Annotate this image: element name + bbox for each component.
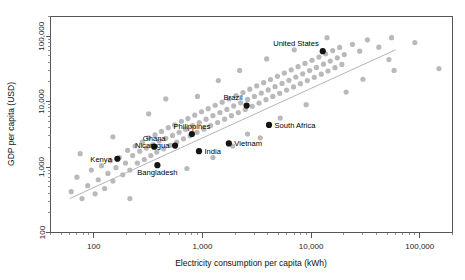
data-point — [261, 80, 266, 85]
data-point — [339, 62, 344, 67]
x-tick-label: 10,000 — [299, 242, 324, 251]
data-point — [120, 172, 125, 177]
data-point — [268, 77, 273, 82]
data-point — [85, 183, 90, 188]
data-point — [275, 74, 280, 79]
data-point — [312, 75, 317, 80]
data-point — [127, 196, 132, 201]
data-point — [279, 81, 284, 86]
data-point — [105, 171, 110, 176]
data-point — [213, 103, 218, 108]
data-point — [391, 68, 396, 73]
data-point — [222, 117, 227, 122]
background-scatter-points — [69, 35, 442, 201]
data-point — [192, 113, 197, 118]
data-point — [332, 65, 337, 70]
point-label-bangladesh: Bangladesh — [137, 168, 177, 177]
data-point — [78, 151, 83, 156]
data-point — [337, 45, 342, 50]
data-point — [389, 35, 394, 40]
x-axis-ticks — [51, 233, 453, 238]
data-point — [284, 88, 289, 93]
data-point — [365, 37, 370, 42]
plot-canvas: 1001,00010,000100,000 1001,00010,000100,… — [0, 0, 465, 280]
y-tick-label: 10,000 — [38, 89, 47, 114]
data-point — [184, 166, 189, 171]
x-tick-label: 100,000 — [405, 242, 434, 251]
data-point — [125, 148, 130, 153]
data-point — [254, 83, 259, 88]
data-point — [330, 48, 335, 53]
data-point — [298, 81, 303, 86]
data-point — [252, 94, 257, 99]
data-point — [163, 96, 168, 101]
data-point — [386, 57, 391, 62]
data-point — [185, 116, 190, 121]
data-point — [237, 68, 242, 73]
data-point — [127, 167, 132, 172]
data-point — [412, 40, 417, 45]
data-point — [277, 91, 282, 96]
data-point — [142, 157, 147, 162]
data-point — [264, 56, 269, 61]
scatter-plot-figure: 1001,00010,000100,000 1001,00010,000100,… — [0, 0, 465, 280]
data-point — [291, 84, 296, 89]
highlighted-data-point — [266, 122, 272, 128]
data-point — [328, 58, 333, 63]
data-point — [69, 189, 74, 194]
data-point — [350, 42, 355, 47]
data-point — [199, 109, 204, 114]
highlighted-data-point — [114, 156, 120, 162]
data-point — [314, 65, 319, 70]
data-point — [231, 103, 236, 108]
data-point — [360, 77, 365, 82]
highlighted-data-point — [196, 148, 202, 154]
y-tick-label: 1,000 — [38, 157, 47, 178]
data-point — [216, 78, 221, 83]
data-point — [335, 55, 340, 60]
data-point — [289, 67, 294, 72]
data-point — [210, 113, 215, 118]
point-label-nicaragua: Nicaragua — [135, 141, 170, 150]
data-point — [229, 113, 234, 118]
data-point — [376, 45, 381, 50]
data-point — [123, 160, 128, 165]
data-point — [96, 177, 101, 182]
data-point — [236, 110, 241, 115]
data-point — [181, 136, 186, 141]
data-point — [256, 100, 261, 105]
data-point — [293, 74, 298, 79]
y-tick-label: 100,000 — [38, 21, 47, 50]
data-point — [325, 68, 330, 73]
data-point — [342, 52, 347, 57]
data-point — [215, 120, 220, 125]
data-point — [270, 94, 275, 99]
point-label-south-africa: South Africa — [275, 121, 317, 130]
data-point — [166, 125, 171, 130]
point-label-india: India — [205, 147, 222, 156]
data-point — [286, 78, 291, 83]
data-point — [74, 175, 79, 180]
data-point — [247, 87, 252, 92]
x-axis-tick-labels: 1001,00010,000100,000 — [87, 242, 435, 251]
data-point — [295, 64, 300, 69]
data-point — [302, 61, 307, 66]
data-point — [206, 106, 211, 111]
highlighted-data-point — [226, 140, 232, 146]
data-point — [305, 78, 310, 83]
y-tick-label: 100 — [38, 225, 47, 239]
data-point — [110, 134, 115, 139]
data-point — [146, 111, 151, 116]
data-point — [148, 153, 153, 158]
y-axis-tick-labels: 1001,00010,000100,000 — [38, 21, 47, 239]
data-point — [344, 89, 349, 94]
point-label-kenya: Kenya — [90, 155, 112, 164]
point-label-united-states: United States — [273, 39, 319, 48]
data-point — [170, 133, 175, 138]
data-point — [250, 104, 255, 109]
data-point — [224, 107, 229, 112]
data-point — [195, 94, 200, 99]
x-tick-label: 100 — [87, 242, 101, 251]
data-point — [266, 87, 271, 92]
data-point — [282, 70, 287, 75]
